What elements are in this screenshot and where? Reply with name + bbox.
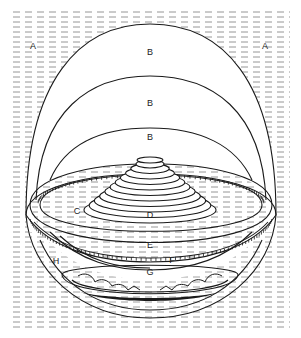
- label-a-left: A: [30, 41, 36, 51]
- cone-top: [137, 157, 163, 163]
- label-d: D: [147, 210, 154, 220]
- label-b-middle: B: [147, 98, 153, 108]
- label-g: G: [146, 267, 153, 277]
- label-b-outer: B: [147, 47, 153, 57]
- label-h: H: [53, 256, 60, 266]
- label-e: E: [147, 240, 153, 250]
- label-c: C: [74, 206, 81, 216]
- label-a-right: A: [262, 41, 268, 51]
- label-f: F: [169, 255, 175, 265]
- dome-diagram: A A B B B C D E F G H: [0, 0, 301, 338]
- label-b-inner: B: [147, 132, 153, 142]
